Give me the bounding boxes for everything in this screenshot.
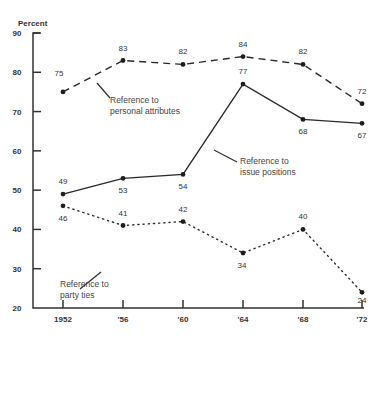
data-label: 84 xyxy=(239,40,248,49)
y-tick-label: 90 xyxy=(13,29,22,38)
y-axis-title: Percent xyxy=(18,19,48,28)
y-tick-label: 20 xyxy=(13,304,22,313)
data-point xyxy=(241,82,246,87)
y-tick-label: 40 xyxy=(13,225,22,234)
x-tick-label: '68 xyxy=(298,315,309,324)
data-label: 49 xyxy=(59,177,68,186)
data-label: 68 xyxy=(299,127,308,136)
data-label: 53 xyxy=(119,186,128,195)
data-point xyxy=(241,54,246,59)
data-point xyxy=(121,176,126,181)
annotation-text: Reference to xyxy=(110,95,159,105)
data-point xyxy=(61,90,66,95)
annotation-leader xyxy=(97,83,110,98)
data-point xyxy=(360,290,365,295)
data-label: 42 xyxy=(179,205,188,214)
data-point xyxy=(61,203,66,208)
data-label: 82 xyxy=(299,47,308,56)
annotations: Reference topersonal attributesReference… xyxy=(60,83,296,300)
data-point xyxy=(241,251,246,256)
data-point xyxy=(121,58,126,63)
series-line-solid xyxy=(63,84,362,194)
data-labels: 758382848272495354776867464142344024 xyxy=(55,40,367,306)
y-tick-label: 70 xyxy=(13,108,22,117)
y-tick-label: 80 xyxy=(13,68,22,77)
annotation-text: Reference to xyxy=(60,279,109,289)
axis-lines xyxy=(33,33,364,308)
data-label: 83 xyxy=(119,44,128,53)
annotation-leader xyxy=(214,150,237,162)
data-point xyxy=(301,117,306,122)
annotation-text: Reference to xyxy=(240,156,289,166)
data-label: 24 xyxy=(358,296,367,305)
data-label: 72 xyxy=(358,87,367,96)
data-label: 67 xyxy=(358,131,367,140)
x-tick-label: '72 xyxy=(357,315,368,324)
data-label: 34 xyxy=(238,261,247,270)
data-point xyxy=(61,192,66,197)
data-point xyxy=(121,223,126,228)
data-point xyxy=(360,101,365,106)
data-point xyxy=(181,219,186,224)
series-group xyxy=(61,54,365,295)
line-chart: Percent 20304050607080901952'56'60'64'68… xyxy=(0,0,388,395)
annotation-text: personal attributes xyxy=(110,106,180,116)
data-point xyxy=(360,121,365,126)
data-label: 54 xyxy=(179,182,188,191)
x-tick-label: '56 xyxy=(118,315,129,324)
data-label: 41 xyxy=(119,209,128,218)
data-label: 75 xyxy=(55,69,64,78)
x-tick-label: '64 xyxy=(238,315,249,324)
y-tick-label: 30 xyxy=(13,265,22,274)
y-tick-label: 50 xyxy=(13,186,22,195)
data-point xyxy=(301,62,306,67)
x-tick-label: 1952 xyxy=(54,315,72,324)
data-label: 40 xyxy=(299,212,308,221)
annotation-text: issue positions xyxy=(240,167,296,177)
data-label: 46 xyxy=(59,214,68,223)
data-point xyxy=(181,62,186,67)
y-tick-label: 60 xyxy=(13,147,22,156)
data-point xyxy=(181,172,186,177)
series-line-dashed xyxy=(63,57,362,104)
data-label: 77 xyxy=(239,67,248,76)
x-tick-label: '60 xyxy=(178,315,189,324)
annotation-text: party ties xyxy=(60,290,95,300)
data-point xyxy=(301,227,306,232)
data-label: 82 xyxy=(179,47,188,56)
